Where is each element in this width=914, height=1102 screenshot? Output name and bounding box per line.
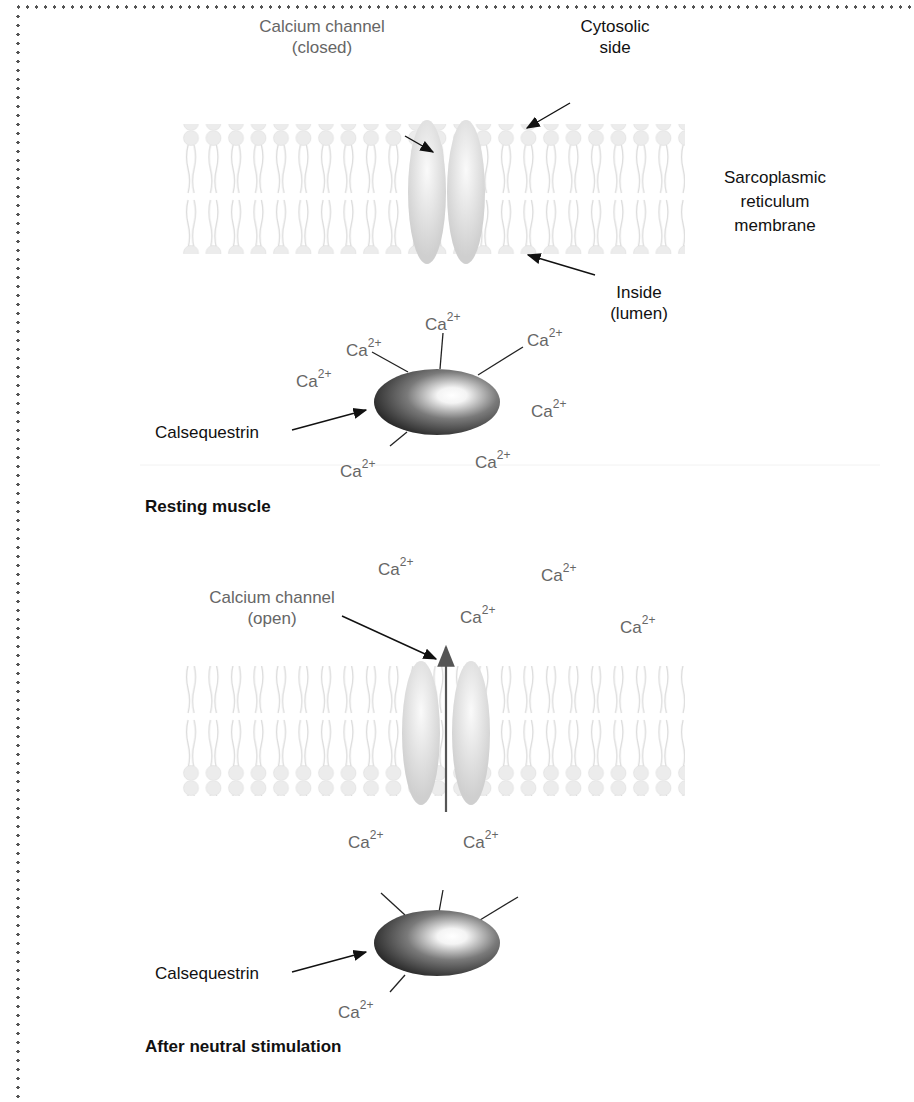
calsequestrin-label-resting: Calsequestrin <box>155 422 259 443</box>
calcium-ion: Ca2+ <box>296 369 331 392</box>
inside-label-line1: Inside <box>594 282 684 303</box>
sr-membrane-label: Sarcoplasmic reticulum membrane <box>700 166 850 238</box>
calsequestrin-stimulated <box>374 890 518 992</box>
channel-open-label-line2: (open) <box>182 608 362 629</box>
inside-lumen-label: Inside (lumen) <box>594 282 684 324</box>
cytosolic-label-line1: Cytosolic <box>560 16 670 37</box>
calcium-ion: Ca2+ <box>463 830 498 853</box>
membrane-label-line1: Sarcoplasmic <box>700 166 850 190</box>
panel-title-stimulated: After neutral stimulation <box>145 1037 341 1057</box>
calcium-ion: Ca2+ <box>340 459 375 482</box>
inside-label-line2: (lumen) <box>594 303 684 324</box>
calcium-ion: Ca2+ <box>348 830 383 853</box>
channel-open-label-line1: Calcium channel <box>182 587 362 608</box>
membrane-label-line3: membrane <box>700 214 850 238</box>
calcium-ion: Ca2+ <box>527 328 562 351</box>
calcium-ion: Ca2+ <box>346 338 381 361</box>
membrane-label-line2: reticulum <box>700 190 850 214</box>
calcium-ion: Ca2+ <box>541 563 576 586</box>
calcium-ion: Ca2+ <box>378 557 413 580</box>
calcium-ion: Ca2+ <box>531 399 566 422</box>
calsequestrin-resting <box>372 333 523 446</box>
calcium-ion: Ca2+ <box>475 450 510 473</box>
cytosolic-label-line2: side <box>560 37 670 58</box>
channel-closed-label-line1: Calcium channel <box>232 16 412 37</box>
calcium-ion: Ca2+ <box>338 1000 373 1023</box>
calcium-ion: Ca2+ <box>620 615 655 638</box>
calcium-ion: Ca2+ <box>425 312 460 335</box>
panel-title-resting: Resting muscle <box>145 497 271 517</box>
calcium-ion: Ca2+ <box>460 605 495 628</box>
channel-open-label: Calcium channel (open) <box>182 587 362 629</box>
cytosolic-side-label: Cytosolic side <box>560 16 670 58</box>
calsequestrin-label-stimulated: Calsequestrin <box>155 963 259 984</box>
channel-closed-label: Calcium channel (closed) <box>232 16 412 58</box>
channel-closed-label-line2: (closed) <box>232 37 412 58</box>
